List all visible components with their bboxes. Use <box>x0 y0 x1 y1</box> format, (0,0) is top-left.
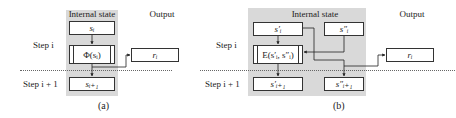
connector-arrows <box>0 0 456 118</box>
